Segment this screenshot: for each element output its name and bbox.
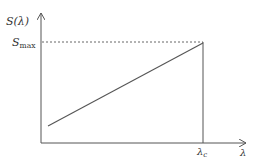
lambda-c-label: λc bbox=[196, 146, 207, 159]
x-axis-label: λ bbox=[239, 147, 246, 158]
spectrum-diagram: S(λ) Smax λc λ bbox=[0, 0, 261, 166]
y-axis-label: S(λ) bbox=[6, 15, 29, 28]
linear-ramp-line bbox=[48, 43, 203, 126]
smax-label: Smax bbox=[12, 36, 36, 50]
